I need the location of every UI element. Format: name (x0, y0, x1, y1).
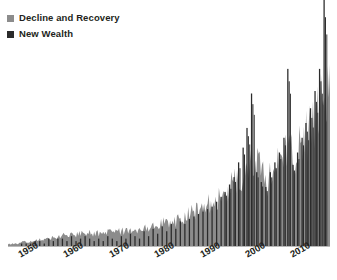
bar-new-wealth (290, 94, 291, 246)
bar-new-wealth (98, 239, 99, 246)
bar-new-wealth (233, 177, 234, 246)
bar-new-wealth (48, 239, 49, 246)
bar-new-wealth (175, 229, 176, 246)
bar-new-wealth (270, 172, 271, 246)
bar-new-wealth (229, 185, 230, 247)
bar-new-wealth (107, 236, 108, 246)
bar-new-wealth (244, 154, 245, 246)
series-decline-and-recovery (8, 64, 330, 246)
bar-new-wealth (221, 197, 222, 246)
bar-new-wealth (157, 234, 158, 246)
bar-new-wealth (287, 69, 288, 246)
bar-new-wealth (198, 214, 199, 246)
bar-new-wealth (307, 132, 308, 246)
bar-new-wealth (289, 81, 290, 246)
bar-new-wealth (143, 231, 144, 246)
bar-new-wealth (230, 189, 231, 246)
bar-new-wealth (57, 239, 58, 246)
legend-item-label: New Wealth (19, 29, 73, 39)
bar-new-wealth (62, 239, 63, 246)
bar-new-wealth (280, 159, 281, 246)
bar-new-wealth (285, 145, 286, 246)
bar-new-wealth (313, 128, 314, 246)
bar-new-wealth (134, 236, 135, 246)
legend-item-label: Decline and Recovery (19, 13, 120, 23)
bar-new-wealth (130, 234, 131, 246)
bar-new-wealth (320, 81, 321, 246)
bar-new-wealth (261, 182, 262, 246)
bar-new-wealth (249, 144, 250, 246)
bar-new-wealth (271, 177, 272, 246)
bar-new-wealth (246, 128, 247, 246)
bar-new-wealth (274, 162, 275, 246)
bar-new-wealth (239, 168, 240, 246)
bar-new-wealth (322, 94, 323, 246)
area-decline-and-recovery (8, 64, 330, 246)
bar-new-wealth (226, 196, 227, 246)
bar-new-wealth (323, 0, 324, 246)
bar-new-wealth (317, 113, 318, 246)
bar-new-wealth (326, 34, 327, 246)
bar-new-wealth (248, 136, 249, 246)
bar-new-wealth (202, 212, 203, 246)
bar-new-wealth (292, 165, 293, 246)
square-marker-icon (7, 31, 14, 38)
bar-new-wealth (310, 108, 311, 246)
legend-item-new-wealth[interactable]: New Wealth (7, 27, 120, 41)
bar-new-wealth (184, 224, 185, 246)
bar-new-wealth (316, 102, 317, 246)
bar-new-wealth (262, 187, 263, 246)
bar-new-wealth (308, 140, 309, 246)
bar-new-wealth (139, 239, 140, 246)
bar-new-wealth (303, 145, 304, 246)
bar-new-wealth (265, 187, 266, 246)
chart-legend: Decline and Recovery New Wealth (7, 11, 120, 43)
bar-new-wealth (279, 153, 280, 246)
bar-new-wealth (152, 229, 153, 246)
bar-new-wealth (84, 236, 85, 246)
bar-new-wealth (238, 162, 239, 246)
bar-new-wealth (89, 239, 90, 246)
bar-new-wealth (297, 153, 298, 246)
bar-new-wealth (235, 182, 236, 246)
bar-new-wealth (298, 159, 299, 246)
bar-new-wealth (319, 69, 320, 246)
bar-new-wealth (325, 17, 326, 246)
bar-new-wealth (112, 239, 113, 246)
bar-new-wealth (301, 138, 302, 246)
bar-new-wealth (267, 191, 268, 246)
bar-new-wealth (311, 118, 312, 246)
bar-new-wealth (276, 168, 277, 246)
bar-new-wealth (251, 93, 252, 246)
bar-new-wealth (180, 221, 181, 246)
square-marker-icon (7, 15, 14, 22)
bar-new-wealth (283, 138, 284, 246)
bar-new-wealth (294, 171, 295, 247)
bar-new-wealth (258, 177, 259, 246)
bar-new-wealth (207, 209, 208, 246)
bar-new-wealth (305, 123, 306, 246)
bar-new-wealth (193, 216, 194, 246)
bar-new-wealth (314, 91, 315, 246)
bar-new-wealth (243, 148, 244, 246)
bar-new-wealth (224, 192, 225, 246)
legend-item-decline-and-recovery[interactable]: Decline and Recovery (7, 11, 120, 25)
bar-new-wealth (189, 219, 190, 246)
bar-new-wealth (254, 115, 255, 246)
bar-new-wealth (256, 172, 257, 246)
bar-new-wealth (148, 236, 149, 246)
chart-container: Decline and Recovery New Wealth 19501960… (0, 0, 337, 280)
bar-new-wealth (252, 104, 253, 246)
